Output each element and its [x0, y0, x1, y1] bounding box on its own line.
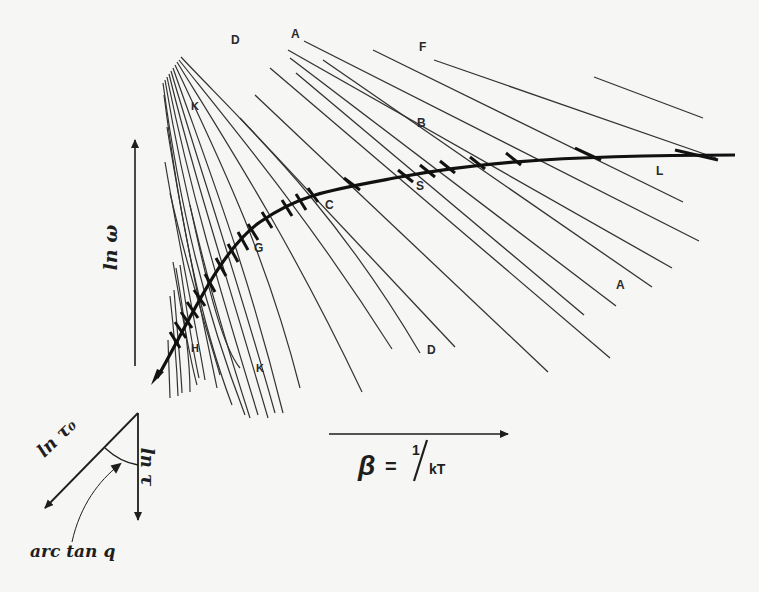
label-d-bottom: D	[427, 344, 436, 356]
ln-omega-label: ln ω	[101, 225, 120, 271]
ln-tau-label: ln τ	[138, 448, 156, 486]
fraction-numerator: 1	[412, 443, 420, 457]
diagram-canvas: A F D K B C S G L A D H K ln ω β = 1 kT …	[0, 0, 759, 592]
arc-tan-q-label: arc tan q	[30, 543, 115, 560]
relaxation-map-diagram	[0, 0, 759, 592]
label-s: S	[416, 180, 424, 192]
label-k-top: K	[191, 101, 199, 112]
beta-symbol: β	[358, 452, 375, 480]
label-l: L	[656, 165, 663, 177]
label-b: B	[417, 117, 426, 129]
label-k-bottom: K	[256, 363, 264, 374]
label-f: F	[419, 41, 426, 53]
fraction-denominator: kT	[429, 462, 445, 476]
label-h: H	[191, 343, 199, 354]
equals-sign: =	[385, 456, 397, 476]
label-a-top: A	[291, 28, 300, 40]
label-d-top: D	[231, 34, 240, 46]
label-c: C	[325, 199, 334, 211]
relaxation-lines-straight	[240, 41, 716, 372]
label-a-right: A	[616, 279, 625, 291]
relaxation-lines-curved	[163, 57, 420, 418]
label-g: G	[254, 242, 263, 254]
main-curve	[157, 155, 735, 378]
curve-arrow-head	[151, 369, 164, 385]
